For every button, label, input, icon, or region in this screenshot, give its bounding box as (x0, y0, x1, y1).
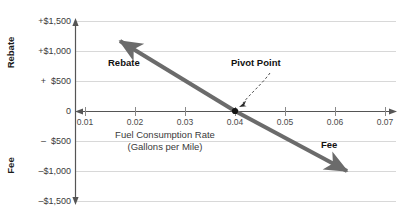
x-tick-label-001: 0.01 (65, 117, 105, 128)
pivot-point-dot (232, 108, 238, 114)
fee-region-label: Fee (321, 139, 337, 150)
x-axis-title-line2: (Gallons per Mile) (85, 141, 245, 154)
rebate-region-label: Rebate (108, 57, 140, 68)
y-tick-label-1500: +$1,500 (11, 15, 71, 27)
y-tick-label-neg1500: –$1,500 (11, 195, 71, 207)
y-tick-label-neg500: – $500 (11, 135, 71, 147)
x-axis-arrow-right (389, 108, 397, 114)
y-tick-label-500: + $500 (11, 75, 71, 87)
y-tick-label-zero: 0 (11, 105, 71, 117)
x-tick-label-003: 0.03 (165, 117, 205, 128)
pivot-point-label: Pivot Point (231, 57, 281, 68)
x-tick-label-004: 0.04 (215, 117, 255, 128)
x-tick-label-002: 0.02 (115, 117, 155, 128)
y-tick-label-neg1000: –$1,000 (11, 165, 71, 177)
feebate-chart: +$1,500 +$1,000 + $500 0 – $500 –$1,000 … (0, 0, 410, 214)
pivot-point-leader (239, 73, 270, 107)
x-axis-arrow-left (75, 108, 83, 114)
x-axis-title-line1: Fuel Consumption Rate (85, 129, 245, 142)
y-axis-title-fee: Fee (5, 142, 16, 190)
x-tick-label-005: 0.05 (265, 117, 305, 128)
x-tick-label-007: 0.07 (365, 117, 405, 128)
y-axis-title-rebate: Rebate (5, 29, 16, 77)
x-tick-label-006: 0.06 (315, 117, 355, 128)
y-tick-label-1000: +$1,000 (11, 45, 71, 57)
